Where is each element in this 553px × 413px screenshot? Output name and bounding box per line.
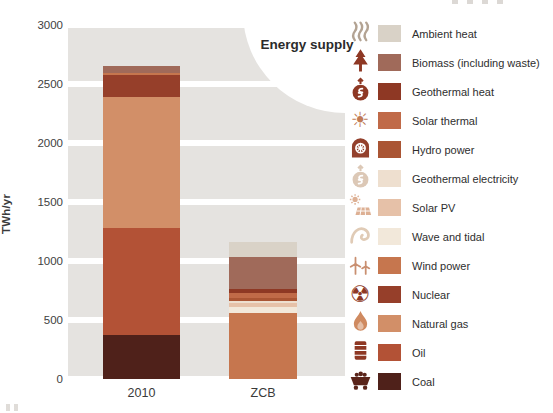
legend-item: ☢Nuclear bbox=[345, 280, 553, 309]
legend-item: Oil bbox=[345, 338, 553, 367]
bar-segment bbox=[103, 335, 180, 379]
legend-item-label: Ambient heat bbox=[412, 28, 477, 40]
legend-swatch bbox=[378, 344, 401, 361]
legend-item: ☀Solar thermal bbox=[345, 106, 553, 135]
legend-item-label: Oil bbox=[412, 347, 425, 359]
legend-item-label: Solar PV bbox=[412, 202, 455, 214]
wind-power-icon bbox=[345, 253, 375, 279]
ambient-heat-icon bbox=[345, 21, 375, 47]
legend-item: Ambient heat bbox=[345, 19, 553, 48]
wave-tidal-icon bbox=[345, 224, 375, 250]
energy-supply-chart: TWh/yr 050010001500200025003000 Energy s… bbox=[0, 0, 553, 413]
solar-thermal-icon: ☀ bbox=[345, 108, 375, 134]
legend-item: Geothermal electricity bbox=[345, 164, 553, 193]
bar-segment bbox=[103, 97, 180, 228]
legend-item-label: Biomass (including waste) bbox=[412, 57, 540, 69]
oil-icon bbox=[345, 340, 375, 366]
stacked-bar-2010 bbox=[103, 66, 180, 379]
coal-icon bbox=[345, 369, 375, 395]
legend-swatch bbox=[378, 170, 401, 187]
legend-swatch bbox=[378, 54, 401, 71]
legend-item: Wave and tidal bbox=[345, 222, 553, 251]
legend-swatch bbox=[378, 83, 401, 100]
legend-item: Geothermal heat bbox=[345, 77, 553, 106]
legend-item: Biomass (including waste) bbox=[345, 48, 553, 77]
legend-item: Hydro power bbox=[345, 135, 553, 164]
bar-segment bbox=[229, 242, 297, 257]
legend-item-label: Hydro power bbox=[412, 144, 474, 156]
legend-swatch bbox=[378, 257, 401, 274]
solar-pv-icon bbox=[345, 195, 375, 221]
x-category-label: ZCB bbox=[229, 386, 297, 400]
bar-segment bbox=[229, 257, 297, 288]
geothermal-electricity-icon bbox=[345, 166, 375, 192]
legend-item-label: Nuclear bbox=[412, 289, 450, 301]
biomass-icon bbox=[345, 50, 375, 76]
legend-item: Natural gas bbox=[345, 309, 553, 338]
bar-segment bbox=[103, 228, 180, 335]
legend-swatch bbox=[378, 141, 401, 158]
natural-gas-icon bbox=[345, 311, 375, 337]
legend-item-label: Wind power bbox=[412, 260, 470, 272]
legend-item-label: Coal bbox=[412, 376, 435, 388]
bar-segment bbox=[103, 75, 180, 97]
legend-swatch bbox=[378, 25, 401, 42]
legend-swatch bbox=[378, 199, 401, 216]
stacked-bar-zcb bbox=[229, 242, 297, 379]
legend-item-label: Natural gas bbox=[412, 318, 468, 330]
bar-segment bbox=[229, 313, 297, 379]
chart-legend: Ambient heatBiomass (including waste)Geo… bbox=[345, 19, 553, 396]
x-category-label: 2010 bbox=[103, 386, 180, 400]
legend-item: Solar PV bbox=[345, 193, 553, 222]
geothermal-heat-icon bbox=[345, 79, 375, 105]
bar-segment bbox=[103, 66, 180, 73]
legend-item-label: Solar thermal bbox=[412, 115, 477, 127]
legend-item-label: Wave and tidal bbox=[412, 231, 484, 243]
legend-item-label: Geothermal electricity bbox=[412, 173, 518, 185]
legend-item-label: Geothermal heat bbox=[412, 86, 494, 98]
nuclear-icon: ☢ bbox=[345, 282, 375, 308]
legend-swatch bbox=[378, 112, 401, 129]
legend-item: Coal bbox=[345, 367, 553, 396]
hydro-power-icon bbox=[345, 137, 375, 163]
legend-swatch bbox=[378, 315, 401, 332]
legend-swatch bbox=[378, 286, 401, 303]
legend-swatch bbox=[378, 228, 401, 245]
legend-item: Wind power bbox=[345, 251, 553, 280]
legend-swatch bbox=[378, 373, 401, 390]
